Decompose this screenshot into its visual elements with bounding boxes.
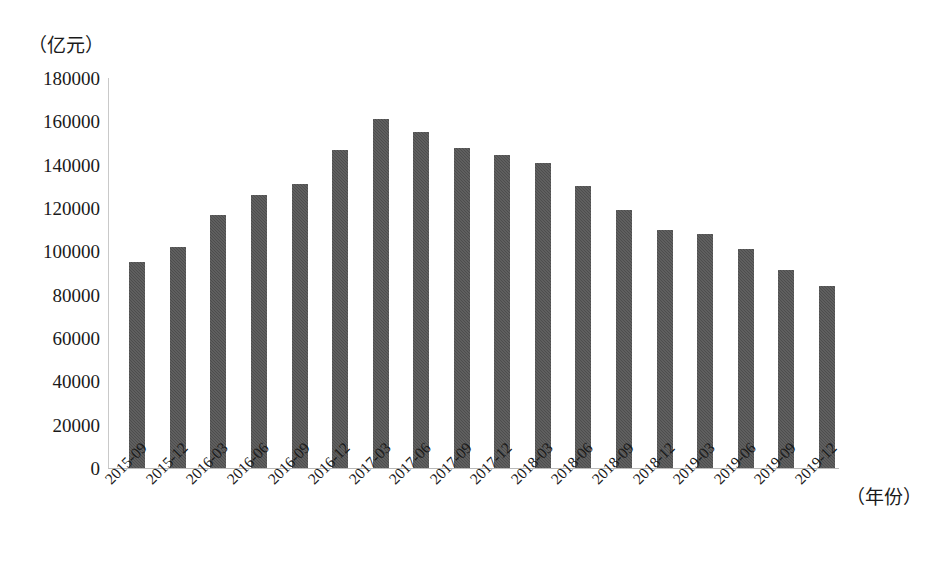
bar-series: [109, 78, 839, 468]
bar: [454, 148, 470, 468]
bar: [129, 262, 145, 468]
y-axis-tick-label: 0: [8, 459, 100, 478]
y-axis-tick-label: 60000: [8, 329, 100, 348]
bar: [738, 249, 754, 468]
y-axis-tick-label: 180000: [8, 69, 100, 88]
bar: [210, 215, 226, 469]
y-axis-tick-label: 80000: [8, 285, 100, 304]
chart-page: （亿元） 02000040000600008000010000012000014…: [0, 0, 934, 581]
bar: [657, 230, 673, 468]
bar: [292, 184, 308, 468]
bar: [332, 150, 348, 469]
bar: [697, 234, 713, 468]
bar: [575, 186, 591, 468]
y-axis-tick-label: 120000: [8, 199, 100, 218]
plot-area: [108, 78, 839, 469]
y-axis-unit-label: （亿元）: [28, 36, 104, 55]
y-axis-tick-label: 40000: [8, 372, 100, 391]
y-axis-tick-label: 100000: [8, 242, 100, 261]
y-axis-tick-label: 20000: [8, 415, 100, 434]
bar: [494, 155, 510, 468]
bar: [413, 132, 429, 468]
y-axis-tick-label: 140000: [8, 155, 100, 174]
bar: [535, 163, 551, 469]
bar: [616, 210, 632, 468]
x-axis-unit-label: （年份）: [846, 488, 922, 507]
bar: [373, 119, 389, 468]
bar: [251, 195, 267, 468]
x-axis-tick-labels: 2015-092015-122016-032016-062016-092016-…: [108, 468, 838, 568]
bar: [170, 247, 186, 468]
y-axis-tick-label: 160000: [8, 112, 100, 131]
